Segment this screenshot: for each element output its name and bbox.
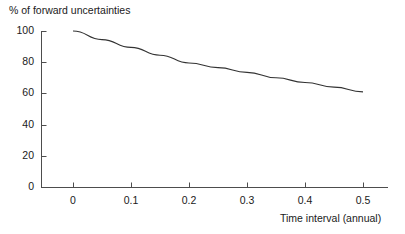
chart-container: % of forward uncertainties 020406080100 … <box>0 0 405 234</box>
y-tick-label: 60 <box>6 87 34 98</box>
x-axis-title: Time interval (annual) <box>280 212 381 224</box>
x-tick-label: 0.5 <box>343 195 383 206</box>
axis-lines <box>41 31 388 188</box>
y-tick-label: 40 <box>6 119 34 130</box>
y-tick-label: 20 <box>6 150 34 161</box>
x-tick-label: 0.3 <box>227 195 267 206</box>
y-tick-label: 100 <box>6 25 34 36</box>
y-tick-label: 80 <box>6 56 34 67</box>
data-series-line <box>73 31 363 92</box>
y-tick-marks <box>42 32 47 188</box>
x-tick-label: 0.4 <box>285 195 325 206</box>
x-tick-marks <box>74 183 364 188</box>
x-tick-label: 0.2 <box>169 195 209 206</box>
x-tick-label: 0.1 <box>111 195 151 206</box>
y-tick-label: 0 <box>6 181 34 192</box>
x-tick-label: 0 <box>53 195 93 206</box>
